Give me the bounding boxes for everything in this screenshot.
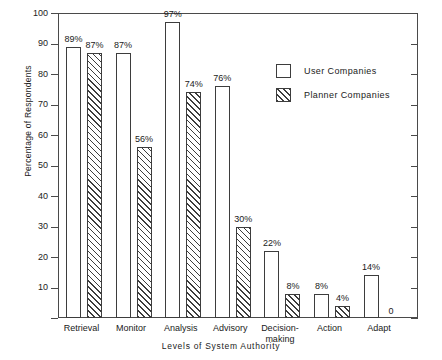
y-tick-left-60 [51, 135, 58, 136]
bar-value-label-planner-3: 30% [227, 215, 260, 224]
y-tick-right-80 [411, 74, 418, 75]
y-tick-left-30 [51, 227, 58, 228]
y-tick-label-70: 70 [8, 100, 48, 109]
y-tick-label-30: 30 [8, 222, 48, 231]
y-tick-right-0 [411, 318, 418, 319]
y-tick-right-100 [411, 13, 418, 14]
bar-user-2 [165, 22, 180, 318]
y-tick-right-90 [411, 44, 418, 45]
y-tick-left-70 [51, 105, 58, 106]
y-tick-right-20 [411, 257, 418, 258]
bar-value-label-planner-6: 0 [389, 307, 394, 316]
legend-swatch-hatched [276, 88, 291, 102]
y-tick-left-40 [51, 196, 58, 197]
y-tick-left-0 [51, 318, 58, 319]
bar-chart: Percentage of Respondents 10203040506070… [0, 0, 442, 360]
y-tick-left-50 [51, 166, 58, 167]
bar-user-1 [116, 53, 131, 318]
y-tick-label-40: 40 [8, 192, 48, 201]
bar-user-6 [364, 275, 379, 318]
legend-label-user-companies: User Companies [304, 66, 377, 76]
bar-value-label-planner-1: 56% [128, 135, 161, 144]
legend-swatch-open [276, 64, 291, 78]
y-tick-left-20 [51, 257, 58, 258]
legend-label-planner-companies: Planner Companies [304, 90, 390, 100]
y-tick-right-10 [411, 288, 418, 289]
y-tick-right-40 [411, 196, 418, 197]
y-tick-label-10: 10 [8, 283, 48, 292]
bar-planner-3 [236, 227, 251, 319]
y-tick-right-60 [411, 135, 418, 136]
y-tick-left-90 [51, 44, 58, 45]
category-label-6: Adapt [350, 323, 409, 334]
y-tick-label-50: 50 [8, 161, 48, 170]
y-tick-right-30 [411, 227, 418, 228]
legend: User Companies Planner Companies [276, 59, 390, 107]
y-tick-label-80: 80 [8, 70, 48, 79]
x-axis-title: Levels of System Authority [0, 341, 442, 351]
bar-planner-4 [285, 294, 300, 318]
bar-value-label-planner-5: 4% [326, 294, 359, 303]
bar-value-label-user-6: 14% [355, 263, 388, 272]
bar-planner-2 [186, 92, 201, 318]
bar-user-3 [215, 86, 230, 318]
y-tick-label-60: 60 [8, 131, 48, 140]
y-tick-label-20: 20 [8, 253, 48, 262]
y-tick-left-100 [51, 13, 58, 14]
y-tick-left-10 [51, 288, 58, 289]
y-tick-label-90: 90 [8, 39, 48, 48]
y-tick-label-100: 100 [8, 9, 48, 18]
y-tick-right-50 [411, 166, 418, 167]
legend-item-planner-companies: Planner Companies [276, 83, 390, 107]
bar-value-label-user-3: 76% [206, 74, 239, 83]
bar-user-0 [66, 47, 81, 318]
bar-planner-5 [335, 306, 350, 318]
bar-planner-0 [87, 53, 102, 318]
legend-item-user-companies: User Companies [276, 59, 390, 83]
y-tick-left-80 [51, 74, 58, 75]
y-tick-right-70 [411, 105, 418, 106]
bar-value-label-user-4: 22% [255, 239, 288, 248]
bar-value-label-user-5: 8% [305, 282, 338, 291]
bar-value-label-user-2: 97% [156, 10, 189, 19]
bar-planner-1 [137, 147, 152, 318]
bar-value-label-user-1: 87% [107, 41, 140, 50]
